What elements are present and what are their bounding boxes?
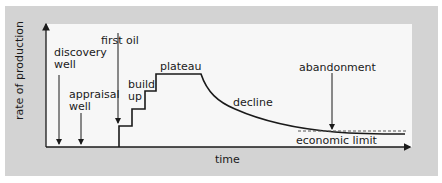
build-up-label: build up (128, 79, 155, 103)
appraisal-well-label-line2: well (69, 101, 120, 113)
appraisal-well-label: appraisal well (69, 89, 120, 113)
abandonment-label: abandonment (299, 62, 376, 74)
discovery-well-label-line2: well (54, 59, 107, 71)
y-axis-label: rate of production (13, 21, 26, 120)
decline-label: decline (233, 97, 273, 109)
first-oil-label: first oil (101, 35, 139, 47)
x-axis-label: time (215, 154, 240, 166)
build-up-label-line2: up (128, 91, 155, 103)
economic-limit-label: economic limit (296, 135, 377, 147)
plateau-label: plateau (160, 61, 202, 73)
discovery-well-label: discovery well (54, 47, 107, 71)
